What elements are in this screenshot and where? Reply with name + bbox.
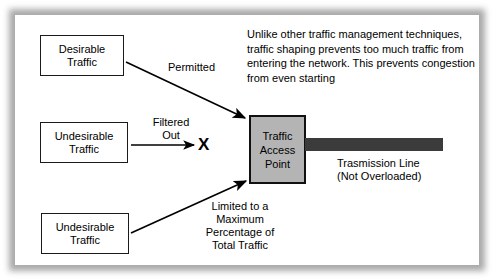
node-undesirable-traffic-middle: Undesirable Traffic (40, 122, 128, 163)
node-label-line2: Traffic (67, 56, 97, 69)
description-paragraph: Unlike other traffic management techniqu… (247, 27, 475, 85)
node-label-line1: Undesirable (56, 221, 115, 234)
diagram-canvas: Desirable Traffic Undesirable Traffic Un… (0, 0, 494, 280)
edge-label-line2: Out (141, 129, 201, 142)
access-point-label-line1: Traffic (263, 129, 293, 143)
edge-label-line4: Total Traffic (192, 239, 288, 252)
node-label-line2: Traffic (69, 143, 99, 156)
node-traffic-access-point: Traffic Access Point (249, 115, 306, 184)
edge-label-line3: Percentage of (192, 226, 288, 239)
transmission-line-bar (305, 138, 443, 151)
edge-label-permitted: Permitted (168, 61, 215, 74)
node-desirable-traffic: Desirable Traffic (40, 35, 124, 76)
node-label-line1: Undesirable (55, 130, 114, 143)
edge-label-limited: Limited to a Maximum Percentage of Total… (192, 200, 288, 252)
x-mark-icon: X (198, 136, 209, 153)
node-label-line2: Traffic (70, 234, 100, 247)
transmission-label-line2: (Not Overloaded) (337, 170, 467, 183)
edge-label-line2: Maximum (192, 213, 288, 226)
edge-label-line1: Filtered (141, 116, 201, 129)
node-undesirable-traffic-bottom: Undesirable Traffic (41, 213, 129, 254)
transmission-line-label: Trasmission Line (Not Overloaded) (337, 157, 467, 183)
transmission-label-line1: Trasmission Line (337, 157, 467, 170)
access-point-label-line2: Access (260, 143, 295, 157)
node-label-line1: Desirable (59, 43, 105, 56)
edge-label-line1: Limited to a (192, 200, 288, 213)
access-point-label-line3: Point (265, 157, 290, 171)
edge-label-filtered-out: Filtered Out (141, 116, 201, 142)
